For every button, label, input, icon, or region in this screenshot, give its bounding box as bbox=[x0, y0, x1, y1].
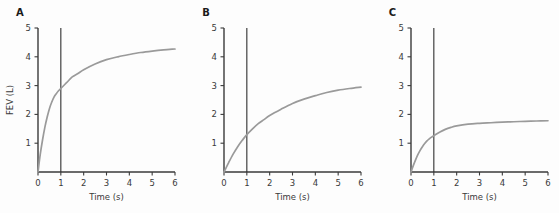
x-tick-label: 1 bbox=[244, 178, 249, 188]
y-tick-label: 5 bbox=[398, 23, 403, 33]
x-tick-label: 6 bbox=[545, 178, 550, 188]
x-tick-label: 5 bbox=[336, 178, 341, 188]
x-tick-label: 6 bbox=[172, 178, 177, 188]
spirometry-figure: A123450123456Time (s)FEV (L)B12345012345… bbox=[0, 0, 559, 213]
chart-canvas: 123450123456Time (s) bbox=[186, 0, 372, 213]
x-tick-label: 2 bbox=[454, 178, 459, 188]
x-axis-label: Time (s) bbox=[461, 192, 497, 202]
chart-panel-c: C123450123456Time (s) bbox=[373, 0, 559, 213]
x-tick-label: 4 bbox=[313, 178, 318, 188]
x-tick-label: 5 bbox=[149, 178, 154, 188]
y-tick-label: 2 bbox=[26, 109, 31, 119]
x-tick-label: 3 bbox=[476, 178, 481, 188]
x-tick-label: 2 bbox=[267, 178, 272, 188]
y-tick-label: 1 bbox=[398, 138, 403, 148]
y-tick-label: 1 bbox=[26, 138, 31, 148]
y-tick-label: 5 bbox=[212, 23, 217, 33]
x-tick-label: 0 bbox=[35, 178, 40, 188]
y-tick-label: 4 bbox=[26, 52, 31, 62]
y-tick-label: 2 bbox=[212, 109, 217, 119]
y-axis-label: FEV (L) bbox=[5, 85, 15, 115]
x-tick-label: 4 bbox=[127, 178, 132, 188]
x-tick-label: 5 bbox=[522, 178, 527, 188]
series-curve bbox=[38, 49, 175, 172]
x-tick-label: 1 bbox=[58, 178, 63, 188]
x-tick-label: 3 bbox=[104, 178, 109, 188]
y-tick-label: 3 bbox=[26, 81, 31, 91]
y-tick-label: 4 bbox=[398, 52, 403, 62]
x-axis-label: Time (s) bbox=[275, 192, 311, 202]
chart-canvas: 123450123456Time (s)FEV (L) bbox=[0, 0, 186, 213]
x-tick-label: 0 bbox=[408, 178, 413, 188]
x-tick-label: 2 bbox=[81, 178, 86, 188]
series-curve bbox=[224, 87, 361, 172]
y-tick-label: 2 bbox=[398, 109, 403, 119]
x-tick-label: 4 bbox=[499, 178, 504, 188]
y-tick-label: 1 bbox=[212, 138, 217, 148]
y-tick-label: 3 bbox=[398, 81, 403, 91]
x-tick-label: 3 bbox=[290, 178, 295, 188]
x-tick-label: 6 bbox=[359, 178, 364, 188]
y-tick-label: 5 bbox=[26, 23, 31, 33]
x-tick-label: 1 bbox=[431, 178, 436, 188]
chart-panel-b: B123450123456Time (s) bbox=[186, 0, 372, 213]
x-tick-label: 0 bbox=[222, 178, 227, 188]
chart-panel-a: A123450123456Time (s)FEV (L) bbox=[0, 0, 186, 213]
y-tick-label: 3 bbox=[212, 81, 217, 91]
series-curve bbox=[411, 121, 548, 172]
y-tick-label: 4 bbox=[212, 52, 217, 62]
chart-canvas: 123450123456Time (s) bbox=[373, 0, 559, 213]
x-axis-label: Time (s) bbox=[88, 192, 124, 202]
